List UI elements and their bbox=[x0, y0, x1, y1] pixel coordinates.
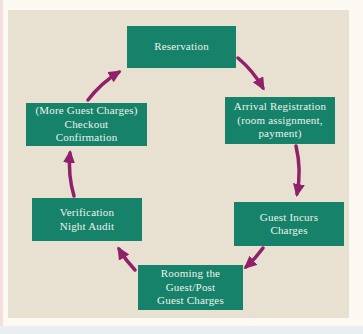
node-rooming-guest-post-charges: Rooming the Guest/Post Guest Charges bbox=[138, 265, 243, 310]
node-arrival-registration: Arrival Registration (room assignment, p… bbox=[225, 97, 335, 144]
node-verification-night-audit-label: Verification Night Audit bbox=[60, 206, 114, 233]
node-reservation: Reservation bbox=[127, 26, 236, 68]
page-edge-strip-bottom bbox=[0, 326, 363, 334]
node-verification-night-audit: Verification Night Audit bbox=[32, 198, 142, 241]
page-edge-strip-left bbox=[0, 0, 3, 334]
node-checkout-confirmation-label: (More Guest Charges) Checkout Confirmati… bbox=[35, 104, 137, 145]
node-reservation-label: Reservation bbox=[154, 40, 209, 54]
node-arrival-registration-label: Arrival Registration (room assignment, p… bbox=[234, 100, 326, 141]
node-guest-incurs-charges: Guest Incurs Charges bbox=[234, 202, 344, 246]
node-rooming-guest-post-charges-label: Rooming the Guest/Post Guest Charges bbox=[157, 267, 224, 308]
node-guest-incurs-charges-label: Guest Incurs Charges bbox=[260, 211, 318, 238]
page: { "figure": { "type": "cycle-diagram", "… bbox=[0, 0, 363, 334]
node-checkout-confirmation: (More Guest Charges) Checkout Confirmati… bbox=[26, 103, 147, 146]
